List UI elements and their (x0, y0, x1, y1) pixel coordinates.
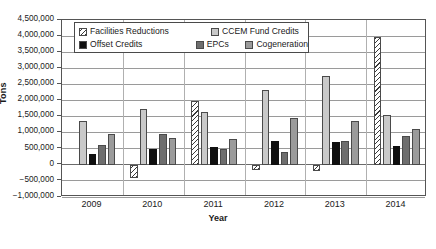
y-tick-label: 0 (0, 160, 54, 168)
legend-swatch-facilities-reductions (79, 28, 87, 36)
gridline (62, 197, 425, 198)
bar (374, 37, 382, 164)
gridline (62, 132, 425, 133)
bar (313, 165, 321, 171)
gridline (62, 180, 425, 181)
x-axis-title: Year (0, 213, 436, 223)
legend-label-epcs: EPCs (207, 40, 229, 49)
bar (281, 152, 289, 165)
y-tick-label: 3,500,000 (0, 47, 54, 55)
chart-legend: Facilities Reductions CCEM Fund Credits … (74, 22, 309, 53)
bar (210, 147, 218, 165)
x-tick-label: 2009 (61, 199, 122, 209)
bar (159, 134, 167, 165)
bar (89, 154, 97, 165)
legend-item-cogeneration[interactable]: Cogeneration (245, 40, 308, 49)
y-tick-label: −1,000,000 (0, 192, 54, 200)
bar (412, 129, 420, 165)
y-tick-label: 3,000,000 (0, 63, 54, 71)
bar (229, 139, 237, 165)
x-tick-label: 2012 (244, 199, 305, 209)
bar (108, 134, 116, 165)
bar (79, 121, 87, 165)
bar (252, 165, 260, 170)
legend-label-facilities-reductions: Facilities Reductions (90, 27, 169, 36)
y-tick-label: 4,000,000 (0, 31, 54, 39)
x-tick-label: 2013 (304, 199, 365, 209)
bar (383, 115, 391, 165)
y-tick-label: 500,000 (0, 144, 54, 152)
legend-swatch-offset-credits (79, 41, 87, 49)
legend-label-offset-credits: Offset Credits (90, 40, 142, 49)
y-tick-label: 2,500,000 (0, 79, 54, 87)
x-tick-label: 2010 (122, 199, 183, 209)
legend-swatch-ccem-fund-credits (211, 28, 219, 36)
gridline (62, 116, 425, 117)
bar (290, 118, 298, 165)
gridline (62, 100, 425, 101)
bar (402, 136, 410, 165)
bar (169, 138, 177, 164)
legend-swatch-epcs (196, 41, 204, 49)
legend-row-1: Facilities Reductions CCEM Fund Credits (79, 25, 308, 38)
gridline (62, 84, 425, 85)
y-tick-label: −500,000 (0, 176, 54, 184)
x-tick-label: 2011 (183, 199, 244, 209)
gridline (62, 164, 425, 165)
bar (191, 101, 199, 165)
y-tick-label: 1,000,000 (0, 127, 54, 135)
category-separator (366, 20, 367, 195)
y-tick-label: 2,000,000 (0, 95, 54, 103)
gridline (62, 148, 425, 149)
x-tick-label: 2014 (365, 199, 426, 209)
bar (130, 165, 138, 178)
bar (220, 149, 228, 164)
legend-label-cogeneration: Cogeneration (256, 40, 308, 49)
bar (332, 142, 340, 165)
bar (341, 141, 349, 164)
bar (262, 90, 270, 165)
legend-item-offset-credits[interactable]: Offset Credits (79, 40, 196, 49)
y-tick-label: 4,500,000 (0, 15, 54, 23)
bar-chart: Tons 4,500,0004,000,0003,500,0003,000,00… (0, 0, 436, 249)
bar (140, 109, 148, 165)
bar (201, 112, 209, 165)
legend-label-ccem-fund-credits: CCEM Fund Credits (222, 27, 299, 36)
legend-item-facilities-reductions[interactable]: Facilities Reductions (79, 27, 211, 36)
y-tick-label: 1,500,000 (0, 111, 54, 119)
legend-row-2: Offset Credits EPCs Cogeneration (79, 38, 308, 51)
legend-item-ccem-fund-credits[interactable]: CCEM Fund Credits (211, 27, 299, 36)
bar (351, 121, 359, 165)
legend-swatch-cogeneration (245, 41, 253, 49)
bar (98, 145, 106, 165)
bar (393, 146, 401, 165)
gridline (62, 68, 425, 69)
bar (322, 76, 330, 165)
legend-item-epcs[interactable]: EPCs (196, 40, 246, 49)
bar (271, 141, 279, 164)
bar (149, 149, 157, 164)
